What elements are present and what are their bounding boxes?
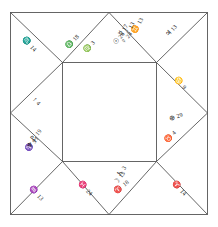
- diagonal-top-left: [11, 13, 63, 63]
- house-5-degree: 13: [136, 17, 144, 25]
- inner-square: [63, 63, 157, 162]
- house-8-degree: 29: [176, 112, 184, 120]
- square-astrology-chart: ♏ 14 ↑ 4 ♎ 18 ♍ 3 ♊ 13 ♂ 13 ☿ 17 ♀ 24 ☉ …: [0, 0, 218, 227]
- diagonal-top-right: [157, 13, 208, 63]
